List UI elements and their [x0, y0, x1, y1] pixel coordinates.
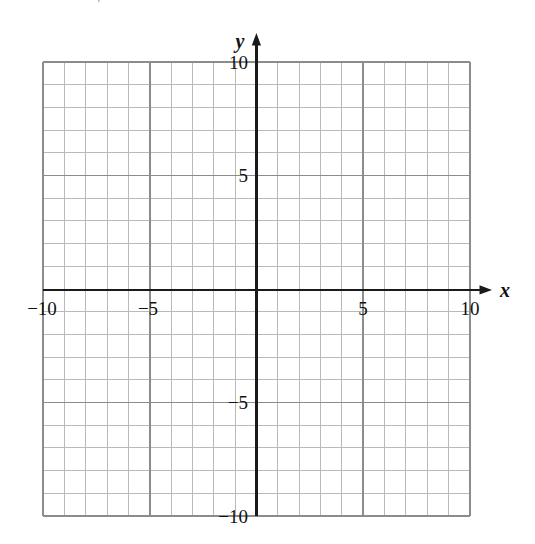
x-tick-label-neg10: −10 — [27, 298, 57, 319]
y-tick-label-5: 5 — [239, 165, 249, 186]
cropped-top-text-fragment: y — [96, 0, 103, 2]
x-tick-label-5: 5 — [358, 298, 368, 319]
y-axis-arrowhead — [252, 33, 261, 46]
x-axis-line — [43, 285, 492, 294]
graph-canvas: x y −10 −5 5 10 10 5 −5 −10 — [0, 0, 535, 544]
y-axis-label: y — [234, 30, 245, 53]
x-tick-label-neg5: −5 — [138, 298, 158, 319]
y-tick-label-neg10: −10 — [218, 506, 248, 527]
x-tick-label-10: 10 — [461, 298, 480, 319]
x-axis-label: x — [499, 279, 510, 301]
coordinate-plane-figure: y — [0, 0, 535, 544]
x-axis-arrowhead — [480, 285, 493, 294]
y-tick-label-neg5: −5 — [228, 392, 248, 413]
y-axis-line — [252, 33, 261, 516]
y-tick-label-10: 10 — [229, 52, 248, 73]
